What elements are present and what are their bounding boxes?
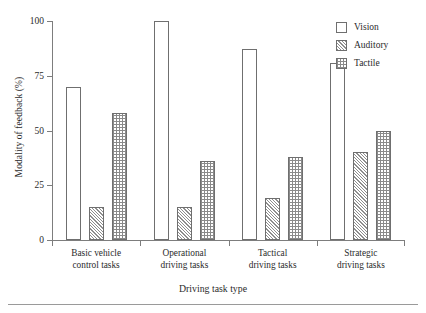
y-tick-label: 0: [39, 235, 44, 245]
y-tick-label: 50: [35, 126, 45, 136]
x-tick-mark: [229, 241, 230, 246]
x-category-label-line: Tactical: [229, 248, 317, 260]
bar-chart-figure: Modality of feedback (%) 0255075100 Basi…: [0, 0, 426, 313]
chart-legend: Vision Auditory Tactile: [336, 18, 426, 72]
x-category-label-line: Operational: [140, 248, 228, 260]
y-tick-mark: [47, 131, 52, 132]
y-tick-mark: [47, 76, 52, 77]
x-category-label-line: control tasks: [52, 260, 140, 272]
bar-tactile-group-3: [288, 157, 303, 240]
bar-vision-group-3: [242, 49, 257, 240]
y-axis-line: [52, 21, 53, 241]
bar-tactile-group-1: [112, 113, 127, 240]
bar-tactile-group-4: [376, 131, 391, 241]
legend-swatch-tactile-icon: [336, 58, 347, 69]
legend-item-tactile: Tactile: [336, 54, 426, 72]
bar-auditory-group-2: [177, 207, 192, 240]
x-category-label-line: driving tasks: [317, 260, 405, 272]
x-tick-mark: [52, 241, 53, 246]
bar-tactile-group-2: [200, 161, 215, 240]
x-category-label-2: Operationaldriving tasks: [140, 248, 228, 271]
x-category-label-line: driving tasks: [140, 260, 228, 272]
x-category-label-1: Basic vehiclecontrol tasks: [52, 248, 140, 271]
y-tick-mark: [47, 185, 52, 186]
bar-auditory-group-1: [89, 207, 104, 240]
x-category-label-line: driving tasks: [229, 260, 317, 272]
bar-auditory-group-3: [265, 198, 280, 240]
legend-label-tactile: Tactile: [354, 58, 380, 68]
legend-label-vision: Vision: [354, 22, 379, 32]
x-tick-mark: [404, 241, 405, 246]
legend-item-vision: Vision: [336, 18, 426, 36]
bar-vision-group-4: [330, 63, 345, 240]
legend-swatch-auditory-icon: [336, 40, 347, 51]
bar-vision-group-2: [154, 21, 169, 240]
y-tick-label: 100: [30, 16, 44, 26]
x-tick-mark: [317, 241, 318, 246]
bar-vision-group-1: [66, 87, 81, 240]
legend-swatch-vision-icon: [336, 22, 347, 33]
footer-rule: [8, 304, 418, 305]
x-axis-title: Driving task type: [0, 283, 426, 294]
x-category-label-4: Strategicdriving tasks: [317, 248, 405, 271]
x-category-label-line: Strategic: [317, 248, 405, 260]
x-category-label-3: Tacticaldriving tasks: [229, 248, 317, 271]
y-tick-label: 75: [35, 71, 45, 81]
x-tick-mark: [140, 241, 141, 246]
y-tick-label: 25: [35, 180, 45, 190]
y-tick-mark: [47, 21, 52, 22]
x-category-label-line: Basic vehicle: [52, 248, 140, 260]
bar-auditory-group-4: [353, 152, 368, 240]
y-axis-title: Modality of feedback (%): [14, 47, 24, 207]
legend-label-auditory: Auditory: [354, 40, 388, 50]
legend-item-auditory: Auditory: [336, 36, 426, 54]
